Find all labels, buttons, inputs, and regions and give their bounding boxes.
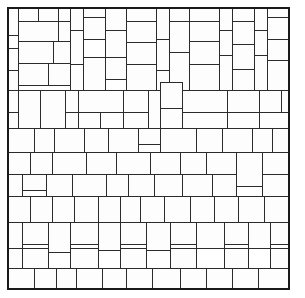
tile-rectangle (196, 128, 222, 152)
tile-rectangle (222, 128, 252, 152)
tile-rectangle (160, 128, 196, 152)
tile-rectangle (70, 248, 98, 270)
tile-rectangle (219, 8, 232, 30)
tile-rectangle (22, 222, 48, 244)
tile-rectangle (120, 248, 146, 270)
tile-rectangle (58, 21, 70, 42)
tile-rectangle (86, 152, 116, 174)
tile-rectangle (190, 196, 214, 222)
tile-rectangle (126, 8, 156, 21)
tile-rectangle (8, 128, 34, 152)
tile-rectangle (8, 174, 22, 196)
tile-rectangle (189, 41, 219, 64)
tile-rectangle (224, 222, 248, 244)
tile-rectangle (18, 63, 48, 85)
tile-rectangle (70, 30, 83, 64)
tile-rectangle (72, 174, 106, 196)
tile-rectangle (126, 21, 156, 42)
tile-rectangle (40, 90, 65, 128)
tile-rectangle (78, 90, 123, 112)
figure-root (0, 0, 305, 298)
tile-rectangle (48, 222, 70, 252)
tile-rectangle (219, 30, 232, 55)
tile-rectangle (8, 196, 30, 222)
tile-rectangle (189, 64, 219, 91)
tile-rectangle (53, 41, 70, 63)
tile-rectangle (156, 8, 169, 39)
tile-rectangle (180, 152, 206, 174)
tile-rectangle (8, 222, 22, 248)
tile-rectangle (30, 152, 52, 174)
tile-rectangle (140, 196, 164, 222)
tile-rectangle (156, 39, 169, 70)
tile-rectangle (102, 268, 126, 289)
tile-rectangle (70, 64, 83, 91)
tile-rectangle (196, 222, 224, 248)
tile-rectangle (8, 48, 18, 70)
tile-rectangle (254, 55, 267, 91)
tile-rectangle (78, 112, 100, 128)
tile-rectangle (34, 128, 54, 152)
tile-rectangle (264, 196, 289, 222)
tile-rectangle (138, 144, 160, 152)
tile-rectangle (258, 268, 289, 289)
tile-rectangle (259, 90, 281, 112)
tile-rectangle (270, 248, 289, 270)
tile-rectangle (126, 42, 156, 64)
tile-rectangle (123, 112, 148, 128)
tile-rectangle (56, 268, 76, 289)
tile-rectangle (182, 112, 227, 128)
tile-rectangle (8, 112, 18, 128)
tile-rectangle (83, 8, 105, 17)
tile-rectangle (18, 21, 58, 41)
tile-rectangle (267, 8, 289, 17)
tile-rectangle (227, 90, 259, 112)
tile-rectangle (65, 90, 78, 112)
tile-rectangle (76, 268, 102, 289)
tile-rectangle (182, 90, 227, 112)
tile-rectangle (160, 108, 182, 128)
tile-rectangle (270, 222, 289, 244)
tile-rectangle (232, 44, 254, 69)
tile-rectangle (83, 57, 105, 91)
tile-rectangle (8, 268, 34, 289)
tile-rectangle (8, 248, 22, 268)
tile-rectangle (189, 21, 219, 41)
tile-rectangle (212, 174, 236, 196)
tile-rectangle (105, 8, 126, 30)
tile-rectangle (74, 196, 98, 222)
tile-rectangle (259, 112, 289, 128)
tile-rectangle (18, 8, 38, 21)
tile-rectangle (267, 60, 289, 91)
tile-rectangle (152, 268, 180, 289)
tile-rectangle (54, 128, 84, 152)
tile-rectangle (120, 196, 140, 222)
tile-rectangle (146, 222, 170, 250)
tile-rectangle (8, 152, 30, 174)
tile-rectangle (227, 112, 259, 128)
tile-rectangle (236, 152, 262, 186)
tile-rectangle (38, 8, 58, 21)
tile-rectangle (123, 90, 148, 112)
tile-rectangle (46, 174, 72, 196)
tile-rectangle (219, 55, 232, 91)
tile-rectangle (232, 8, 254, 21)
tile-rectangle (189, 8, 219, 21)
tile-rectangle (34, 268, 56, 289)
tile-rectangle (169, 8, 189, 21)
tile-rectangle (98, 222, 120, 250)
tile-rectangle (98, 196, 120, 222)
rectangle-dissection-diagram (0, 0, 305, 298)
tile-rectangle (126, 268, 152, 289)
tile-rectangle (8, 90, 18, 112)
tile-rectangle (238, 196, 264, 222)
tile-rectangle (52, 152, 86, 174)
tile-rectangle (48, 63, 70, 85)
tile-rectangle (138, 128, 160, 144)
tile-rectangle (160, 82, 182, 108)
tile-rectangle (180, 268, 206, 289)
tile-rectangle (206, 152, 236, 174)
tile-rectangle (105, 57, 126, 79)
tile-rectangle (100, 112, 123, 128)
tile-rectangle (18, 90, 40, 128)
